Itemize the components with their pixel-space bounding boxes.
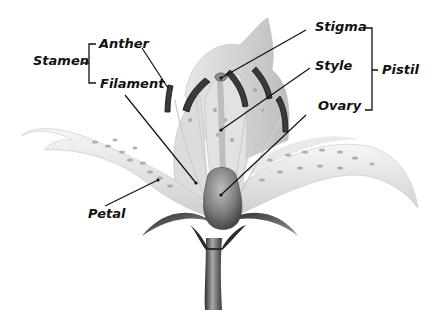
- label-style: Style: [315, 59, 352, 72]
- label-ovary: Ovary: [318, 99, 361, 112]
- lily-illustration: [0, 0, 436, 319]
- label-stigma: Stigma: [315, 20, 367, 33]
- label-stamen: Stamen: [33, 54, 89, 67]
- label-petal: Petal: [88, 207, 125, 220]
- label-anther: Anther: [99, 37, 149, 50]
- label-pistil: Pistil: [382, 63, 419, 76]
- flower-diagram: Stamen Anther Filament Stigma Style Ovar…: [0, 0, 436, 319]
- label-filament: Filament: [100, 77, 164, 90]
- left-leaf: [142, 213, 212, 236]
- ovary: [203, 168, 242, 230]
- pistil-bracket: [365, 28, 378, 110]
